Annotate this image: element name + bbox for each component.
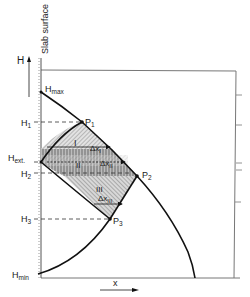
label-hmin: Hmin [12, 270, 29, 281]
point-p2-marker [135, 174, 139, 178]
region-label-III: III [96, 185, 103, 194]
region-label-II: II [76, 161, 80, 170]
label-hext: Hext. [8, 153, 25, 164]
label-h3: H3 [21, 214, 32, 225]
x-axis-label: x [113, 278, 118, 288]
region-label-I: I [74, 138, 77, 148]
h-arrow-icon [27, 56, 31, 97]
label-p3: P3 [113, 216, 123, 227]
label-hmax: Hmax [45, 84, 65, 95]
region-II [41, 149, 137, 176]
h-axis-label: H [17, 55, 24, 66]
point-p3-marker [108, 217, 112, 221]
hydrodynamic-diagram: Slab surface H x Hmax H1 Hext. H2 H3 Hmi… [0, 0, 250, 297]
slab-surface-label: Slab surface [40, 4, 50, 54]
point-p1-marker [80, 120, 84, 124]
x-arrow-icon [100, 288, 139, 292]
label-h1: H1 [21, 118, 32, 129]
label-h2: H2 [21, 169, 32, 180]
label-p2: P2 [142, 170, 152, 181]
label-p1: P1 [85, 117, 95, 128]
